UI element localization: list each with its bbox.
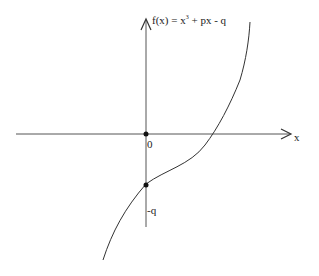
- y-intercept-label: -q: [147, 204, 156, 216]
- cubic-graph: [0, 0, 319, 276]
- origin-label: 0: [147, 138, 153, 150]
- x-axis-label: x: [294, 131, 300, 143]
- origin-point: [144, 132, 149, 137]
- cubic-curve: [103, 22, 250, 260]
- function-title: f(x) = x3 + px - q: [152, 14, 226, 26]
- y-intercept-point: [144, 183, 149, 188]
